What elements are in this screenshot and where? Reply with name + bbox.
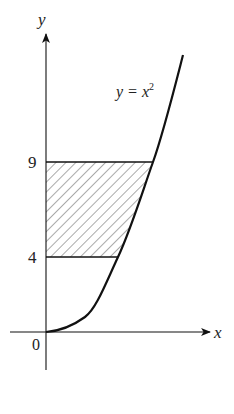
x-axis-label: x — [213, 323, 222, 342]
diagram-canvas: y x 0 9 4 y = x2 — [0, 0, 234, 414]
curve-equation-base: y = x — [114, 83, 149, 101]
y-axis-label: y — [36, 10, 46, 29]
curve-equation-exponent: 2 — [149, 81, 154, 92]
curve-equation-label: y = x2 — [114, 81, 154, 101]
y-tick-4-label: 4 — [28, 248, 37, 267]
y-tick-9-label: 9 — [28, 153, 37, 172]
origin-label: 0 — [32, 336, 40, 353]
